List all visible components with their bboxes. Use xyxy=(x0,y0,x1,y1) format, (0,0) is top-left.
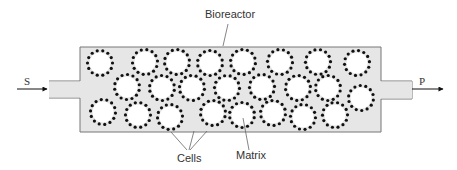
cell-dot xyxy=(253,57,256,60)
cell-dot xyxy=(324,50,327,53)
cell-dot xyxy=(353,85,356,88)
cell-dot xyxy=(285,82,288,85)
cell-dot xyxy=(246,125,249,128)
cell-dot xyxy=(199,54,202,57)
cell-dot xyxy=(249,91,252,94)
cell-dot xyxy=(359,73,362,76)
cell-dot xyxy=(319,48,322,51)
bioreactor-diagram: S P Bioreactor Cells Matrix xyxy=(0,0,457,170)
cell-dot xyxy=(295,99,298,102)
cell-dot xyxy=(167,128,170,131)
cell-dot xyxy=(339,89,342,92)
cell-dot xyxy=(91,104,94,107)
cell-dot xyxy=(267,123,270,126)
cell-dot xyxy=(210,124,213,127)
cell-dot xyxy=(362,51,365,54)
cell-dot xyxy=(281,73,284,76)
cell-dot xyxy=(90,115,93,118)
cell-dot xyxy=(282,118,285,121)
cell-dot xyxy=(271,50,274,53)
cell-dot xyxy=(135,94,138,97)
cell-dot xyxy=(267,65,270,68)
cell-dot xyxy=(173,89,176,92)
cell-dot xyxy=(132,56,135,59)
cell-dot xyxy=(101,49,104,52)
cell-dot xyxy=(213,86,216,89)
cell-dot xyxy=(134,126,137,129)
cell-dot xyxy=(290,109,293,112)
cell-dot xyxy=(201,93,204,96)
cell-dot xyxy=(218,76,221,79)
cell-dot xyxy=(222,104,225,107)
cell-dot xyxy=(235,125,238,128)
cell-dot xyxy=(177,125,180,128)
cell-dot xyxy=(308,51,311,54)
cell-dot xyxy=(184,76,187,79)
cell-dot xyxy=(135,51,138,54)
cell-dot xyxy=(223,74,226,77)
cell-dot xyxy=(280,103,283,106)
cell-dot xyxy=(310,106,313,109)
cell-dot xyxy=(325,104,328,107)
cell-dot xyxy=(240,48,243,51)
cell-dot xyxy=(305,103,308,106)
cell-dot xyxy=(282,48,285,51)
cell-dot xyxy=(148,108,151,111)
cell-dot xyxy=(327,74,330,77)
cell-dot xyxy=(106,52,109,55)
cell-dot xyxy=(289,66,292,69)
cell-dot xyxy=(354,74,357,77)
cell-dot xyxy=(332,75,335,78)
cell-dot xyxy=(298,127,301,130)
cell-dot xyxy=(253,111,256,114)
cell-dot xyxy=(345,108,348,111)
cell-dot xyxy=(131,74,134,77)
cell-dot xyxy=(114,111,117,114)
cell-dot xyxy=(229,74,232,77)
cell-dot xyxy=(125,119,128,122)
cell-dot xyxy=(326,99,329,102)
cell-dot xyxy=(96,49,99,52)
cell-dot xyxy=(232,69,235,72)
cell-dot xyxy=(157,111,160,114)
cell-dot xyxy=(243,73,246,76)
cell-dot xyxy=(293,125,296,128)
cell-dot xyxy=(246,49,249,52)
cell-dot xyxy=(161,99,164,102)
cell-dot xyxy=(175,105,178,108)
cell-dot xyxy=(169,71,172,74)
cell-dot xyxy=(246,102,249,105)
cell-dot xyxy=(199,78,202,81)
cell-dot xyxy=(138,83,141,86)
cell-dot xyxy=(89,109,92,112)
cell-dot xyxy=(317,78,320,81)
cell-dot xyxy=(265,101,268,104)
cell-dot xyxy=(336,126,339,129)
cell-dot xyxy=(180,72,183,75)
cell-dot xyxy=(100,98,103,101)
cell-dot xyxy=(266,60,269,63)
cell-dot xyxy=(343,63,346,66)
cell-dot xyxy=(170,94,173,97)
cell-dot xyxy=(268,75,271,78)
cell-dot xyxy=(344,57,347,60)
cell-dot xyxy=(303,128,306,131)
cell-dot xyxy=(115,93,118,96)
cell-dot xyxy=(308,90,311,93)
cell-dot xyxy=(272,124,275,127)
cell-dot xyxy=(148,84,151,87)
cell-dot xyxy=(105,99,108,102)
cell-dot xyxy=(336,101,339,104)
cell-dot xyxy=(156,59,159,62)
cell-dot xyxy=(214,73,217,76)
cell-dot xyxy=(290,120,293,123)
cell-dot xyxy=(152,70,155,73)
cell-dot xyxy=(322,119,325,122)
cell-dot xyxy=(237,81,240,84)
cell-dot xyxy=(341,123,344,126)
cell-dot xyxy=(222,99,225,102)
cell-dot xyxy=(345,68,348,71)
cell-dot xyxy=(179,91,182,94)
cell-dot xyxy=(195,75,198,78)
cell-dot xyxy=(147,72,150,75)
